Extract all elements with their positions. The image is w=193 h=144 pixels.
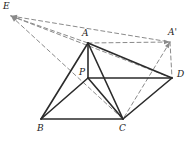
solid-edge-group (41, 43, 172, 119)
dashed-edge-Ap-D (170, 42, 172, 78)
geometry-figure: EAA'PDBC (0, 0, 193, 144)
vertex-label-B: B (37, 124, 44, 133)
vertex-label-E: E (3, 2, 10, 11)
solid-edge-P-C (88, 78, 123, 119)
dashed-edge-Ap-C (123, 42, 170, 119)
solid-edge-A-D (88, 43, 172, 78)
vertex-label-Ap: A' (168, 28, 177, 37)
vertex-label-P: P (79, 68, 85, 77)
vertex-label-A: A (82, 29, 89, 38)
dashed-edge-A-Ap (88, 42, 170, 43)
vertex-label-C: C (119, 124, 126, 133)
dashed-edge-E-A (11, 16, 88, 43)
solid-edge-A-B (41, 43, 88, 119)
solid-edge-A-C (88, 43, 123, 119)
figure-canvas (0, 0, 193, 144)
dashed-edge-E-Ap (11, 16, 170, 42)
solid-edge-C-D (123, 78, 172, 119)
dashed-edge-E-C (11, 16, 123, 119)
solid-edge-B-P (41, 78, 88, 119)
vertex-label-D: D (177, 70, 184, 79)
